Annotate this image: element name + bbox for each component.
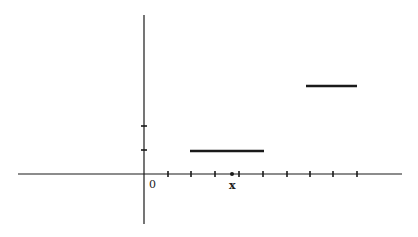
x-label: x	[229, 179, 236, 192]
axes	[18, 15, 402, 224]
origin-label: 0	[149, 178, 156, 191]
step-segments	[190, 86, 357, 151]
x-point-marker	[230, 172, 234, 176]
step-function-diagram: 0 x	[0, 0, 418, 237]
